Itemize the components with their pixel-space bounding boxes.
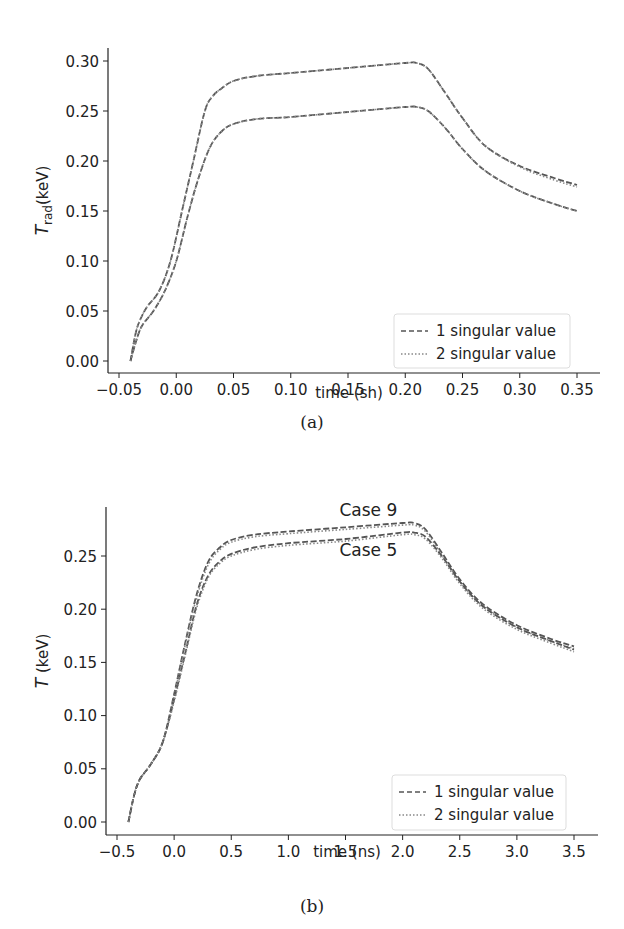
figure: 0.000.050.100.150.200.250.30−0.050.000.0… (0, 0, 624, 929)
x-tick-label: 0.20 (389, 381, 422, 399)
chart-panel-b: 0.000.050.100.150.200.25−0.50.00.51.01.5… (32, 500, 598, 916)
chart-panel-a: 0.000.050.100.150.200.250.30−0.050.000.0… (32, 48, 600, 432)
y-tick-label: 0.05 (66, 303, 99, 321)
y-tick-label: 0.25 (66, 103, 99, 121)
figure-caption: (b) (300, 896, 324, 916)
legend-label: 1 singular value (434, 783, 554, 801)
legend-label: 2 singular value (434, 806, 554, 824)
x-axis-label: time (sh) (315, 384, 383, 402)
y-tick-label: 0.20 (66, 153, 99, 171)
y-tick-label: 0.15 (66, 203, 99, 221)
x-tick-label: 0.25 (446, 381, 479, 399)
y-tick-label: 0.10 (64, 707, 97, 725)
x-tick-label: 0.00 (160, 381, 193, 399)
y-tick-label: 0.15 (64, 654, 97, 672)
x-tick-label: 0.0 (162, 843, 186, 861)
x-tick-label: −0.05 (96, 381, 142, 399)
x-tick-label: 2.0 (391, 843, 415, 861)
x-tick-label: 3.5 (562, 843, 586, 861)
y-axis-label: Trad(keV) (32, 166, 55, 236)
legend: 1 singular value2 singular value (394, 314, 570, 368)
x-tick-label: 0.5 (219, 843, 243, 861)
x-tick-label: 3.0 (505, 843, 529, 861)
y-tick-label: 0.30 (66, 53, 99, 71)
x-tick-label: −0.5 (99, 843, 135, 861)
y-tick-label: 0.25 (64, 548, 97, 566)
legend-label: 1 singular value (436, 322, 556, 340)
x-tick-label: 1.0 (276, 843, 300, 861)
y-tick-label: 0.05 (64, 760, 97, 778)
x-tick-label: 0.35 (560, 381, 593, 399)
legend: 1 singular value2 singular value (392, 775, 566, 830)
legend-label: 2 singular value (436, 345, 556, 363)
y-tick-label: 0.00 (64, 814, 97, 832)
y-tick-label: 0.10 (66, 253, 99, 271)
annotation-case-5: Case 5 (339, 540, 397, 560)
x-tick-label: 0.10 (274, 381, 307, 399)
x-tick-label: 0.05 (217, 381, 250, 399)
annotation-case-9: Case 9 (339, 500, 397, 520)
y-tick-label: 0.20 (64, 601, 97, 619)
x-axis-label: time (ns) (313, 843, 381, 861)
y-axis-label: T (keV) (32, 634, 52, 689)
figure-caption: (a) (300, 412, 323, 432)
y-tick-label: 0.00 (66, 353, 99, 371)
x-tick-label: 0.30 (503, 381, 536, 399)
x-tick-label: 2.5 (448, 843, 472, 861)
